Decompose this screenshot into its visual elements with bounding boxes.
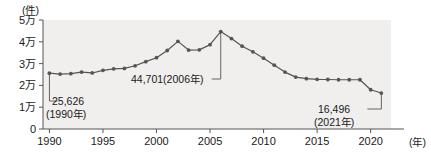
x-tick-label: 2000 — [144, 135, 168, 147]
data-point-marker — [197, 48, 201, 52]
data-point-marker — [283, 70, 287, 74]
y-axis-unit-label: (件) — [22, 4, 39, 16]
x-tick-label: 2010 — [251, 135, 275, 147]
chart-canvas: 01万2万3万4万5万 1990199520002005201020152020… — [0, 0, 431, 159]
data-point-marker — [122, 67, 126, 71]
data-point-marker — [101, 68, 105, 72]
data-point-marker — [133, 64, 137, 68]
data-point-marker — [58, 72, 62, 76]
y-tick-label: 2万 — [19, 79, 36, 91]
data-point-marker — [155, 56, 159, 60]
x-tick-label: 1990 — [37, 135, 61, 147]
data-point-marker — [144, 60, 148, 64]
data-point-marker — [240, 44, 244, 48]
data-point-marker — [272, 63, 276, 67]
data-point-marker — [337, 78, 341, 82]
x-tick-label: 2005 — [198, 135, 222, 147]
data-point-marker — [90, 71, 94, 75]
data-point-marker — [315, 77, 319, 81]
data-point-marker — [165, 49, 169, 53]
y-tick-label: 1万 — [19, 101, 36, 113]
annotation-end-year: (2021年) — [314, 116, 354, 128]
annotation-start-year: (1990年) — [46, 108, 86, 120]
data-point-marker — [358, 78, 362, 82]
data-point-marker — [176, 39, 180, 43]
x-axis-unit-label: (年) — [409, 136, 426, 148]
data-point-marker — [187, 48, 191, 52]
line-chart: 01万2万3万4万5万 1990199520002005201020152020… — [0, 0, 431, 159]
x-tick-label: 1995 — [91, 135, 115, 147]
data-point-marker — [347, 78, 351, 82]
data-point-marker — [208, 43, 212, 47]
x-tick-label: 2015 — [305, 135, 329, 147]
data-point-marker — [69, 72, 73, 76]
annotation-end-value: 16,496 — [318, 103, 350, 115]
data-point-marker — [251, 50, 255, 54]
data-point-marker — [262, 56, 266, 60]
data-point-marker — [80, 70, 84, 74]
data-point-marker — [112, 67, 116, 71]
annotation-start-value: 25,626 — [52, 95, 84, 107]
y-tick-label: 4万 — [19, 36, 36, 48]
data-point-marker — [326, 78, 330, 82]
y-tick-label: 0 — [30, 123, 36, 135]
data-point-marker — [230, 37, 234, 41]
data-point-marker — [305, 77, 309, 81]
y-tick-label: 3万 — [19, 58, 36, 70]
annotation-peak-value: 44,701(2006年) — [131, 73, 203, 85]
data-point-marker — [294, 75, 298, 79]
x-tick-label: 2020 — [358, 135, 382, 147]
data-point-marker — [369, 88, 373, 92]
